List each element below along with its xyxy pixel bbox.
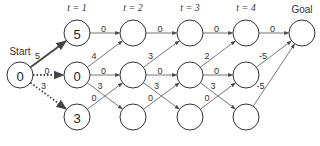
edge-weight-label: 0 bbox=[44, 66, 49, 76]
edge-weight-label: 0 bbox=[157, 24, 162, 34]
node-t2-top bbox=[120, 20, 146, 46]
node-t4-mid bbox=[233, 62, 259, 88]
graph-diagram: 5030403003030020300-5-5 0503 Start Goal … bbox=[0, 0, 320, 146]
node-t1-mid: 0 bbox=[64, 62, 90, 88]
node-t1-top: 5 bbox=[64, 20, 90, 46]
node-t1-bot: 3 bbox=[64, 104, 90, 130]
edge-start-to-t1-bot bbox=[30, 83, 66, 109]
edge-weight-label: 0 bbox=[214, 66, 219, 76]
edge-weight-label: 3 bbox=[41, 81, 46, 91]
node-circle bbox=[177, 104, 203, 130]
time-label-4: t = 4 bbox=[236, 2, 256, 13]
node-circle bbox=[289, 20, 315, 46]
edge-weight-label: -5 bbox=[257, 81, 265, 91]
node-circle bbox=[233, 20, 259, 46]
start-label: Start bbox=[9, 46, 30, 57]
node-circle bbox=[120, 104, 146, 130]
edge-weight-label: 3 bbox=[98, 81, 103, 91]
edge-weight-label: 0 bbox=[270, 24, 275, 34]
edge-weight-label: 5 bbox=[35, 51, 40, 61]
edge-weight-label: 0 bbox=[148, 93, 153, 103]
time-label-1: t = 1 bbox=[67, 2, 87, 13]
node-goal bbox=[289, 20, 315, 46]
edge-weight-label: 2 bbox=[205, 51, 210, 61]
node-t2-bot bbox=[120, 104, 146, 130]
edge-weight-label: 0 bbox=[92, 93, 97, 103]
node-value: 0 bbox=[16, 69, 23, 84]
node-value: 0 bbox=[73, 69, 80, 84]
edge-weight-label: 0 bbox=[101, 24, 106, 34]
time-label-2: t = 2 bbox=[123, 2, 143, 13]
node-circle bbox=[120, 62, 146, 88]
node-t3-bot bbox=[177, 104, 203, 130]
node-circle bbox=[233, 104, 259, 130]
node-start: 0 bbox=[7, 62, 33, 88]
edge-weight-label: 0 bbox=[214, 24, 219, 34]
node-circle bbox=[177, 20, 203, 46]
node-value: 5 bbox=[73, 27, 80, 42]
node-t4-top bbox=[233, 20, 259, 46]
node-t2-mid bbox=[120, 62, 146, 88]
node-circle bbox=[233, 62, 259, 88]
edge-weight-label: -5 bbox=[259, 51, 267, 61]
time-label-3: t = 3 bbox=[180, 2, 200, 13]
node-t3-mid bbox=[177, 62, 203, 88]
edge-weight-label: 3 bbox=[154, 81, 159, 91]
node-t4-bot bbox=[233, 104, 259, 130]
edge-weight-label: 3 bbox=[211, 81, 216, 91]
edge-weight-label: 3 bbox=[148, 51, 153, 61]
goal-label: Goal bbox=[291, 4, 312, 15]
edge-weight-label: 4 bbox=[92, 51, 97, 61]
edge-weight-label: 0 bbox=[101, 66, 106, 76]
node-value: 3 bbox=[73, 111, 80, 126]
node-t3-top bbox=[177, 20, 203, 46]
node-circle bbox=[120, 20, 146, 46]
node-circle bbox=[177, 62, 203, 88]
edge-weight-label: 0 bbox=[205, 93, 210, 103]
edge-weight-label: 0 bbox=[157, 66, 162, 76]
